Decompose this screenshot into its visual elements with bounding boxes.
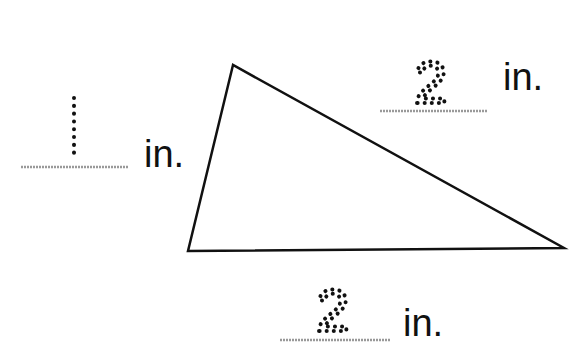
traced-digit-2-right: 2 [414,49,447,116]
triangle-worksheet: 2 2 in. in. in. [0,0,577,355]
unit-label-bottom: in. [403,304,443,342]
unit-label-right: in. [503,58,543,96]
triangle-diagram: 2 2 [0,0,577,355]
traced-digit-2-bottom: 2 [316,277,349,344]
unit-label-left: in. [144,135,184,173]
